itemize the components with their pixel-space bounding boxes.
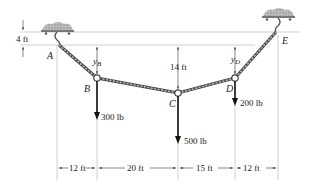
joint-b	[94, 75, 100, 81]
span-2-label: 20 ft	[127, 163, 144, 173]
joint-d	[232, 75, 238, 81]
joints	[94, 75, 238, 96]
point-d-label: D	[225, 83, 234, 94]
support-e	[262, 8, 295, 32]
point-e-label: E	[281, 35, 288, 46]
cable	[59, 32, 276, 93]
sag-center-label: 14 ft	[170, 62, 187, 72]
span-4-label: 12 ft	[243, 163, 260, 173]
load-c-label: 500 lb	[184, 136, 207, 146]
span-1-label: 12 ft	[69, 163, 86, 173]
joint-c	[175, 90, 181, 96]
cable-diagram: 4 ft A B C D E yB 14 ft yD 300 lb 500 lb…	[0, 0, 309, 193]
span-3-label: 15 ft	[196, 163, 213, 173]
point-c-label: C	[169, 98, 176, 109]
load-b-label: 300 lb	[101, 112, 124, 122]
point-b-label: B	[84, 83, 90, 94]
support-offset-label: 4 ft	[16, 34, 29, 44]
point-a-label: A	[46, 50, 54, 61]
support-a	[41, 22, 74, 46]
load-d-label: 200 lb	[240, 98, 263, 108]
